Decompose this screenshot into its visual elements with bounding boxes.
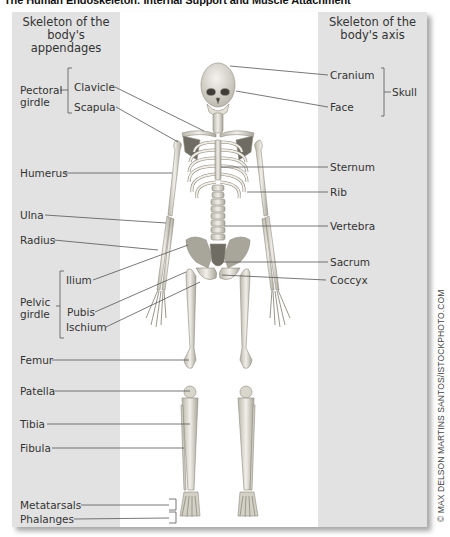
label-vertebra: Vertebra <box>330 220 375 232</box>
pelvic-girdle-label: Pelvic girdle <box>20 296 50 320</box>
label-sacrum: Sacrum <box>330 256 370 268</box>
label-clavicle: Clavicle <box>74 81 115 93</box>
photo-credit: © MAX DELSON MARTINS SANTOS/ISTOCKPHOTO.… <box>436 290 446 522</box>
label-metatarsals: Metatarsals <box>20 499 81 511</box>
skeleton <box>146 63 290 517</box>
label-rib: Rib <box>330 186 347 198</box>
label-radius: Radius <box>20 234 55 246</box>
label-tibia: Tibia <box>20 418 45 430</box>
label-fibula: Fibula <box>20 442 51 454</box>
label-scapula: Scapula <box>74 101 116 113</box>
label-ilium: Ilium <box>66 274 92 286</box>
skeleton-illustration <box>0 0 450 537</box>
label-face: Face <box>330 101 354 113</box>
pectoral-girdle-label: Pectoral girdle <box>20 84 62 108</box>
label-phalanges: Phalanges <box>20 513 74 525</box>
label-ischium: Ischium <box>66 321 107 333</box>
label-cranium: Cranium <box>330 69 375 81</box>
label-pubis: Pubis <box>67 306 95 318</box>
leader-lines <box>45 66 391 523</box>
label-femur: Femur <box>20 354 53 366</box>
skull-label: Skull <box>392 86 417 98</box>
label-patella: Patella <box>20 385 55 397</box>
label-ulna: Ulna <box>20 209 44 221</box>
label-sternum: Sternum <box>330 161 375 173</box>
label-humerus: Humerus <box>20 167 68 179</box>
label-coccyx: Coccyx <box>330 274 368 286</box>
